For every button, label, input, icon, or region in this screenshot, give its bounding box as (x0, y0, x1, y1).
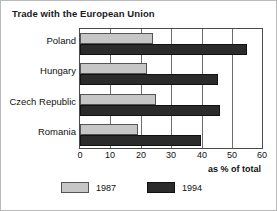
y-axis-labels: Poland Hungary Czech Republic Romania (1, 28, 76, 149)
bar-romania-1994 (80, 135, 201, 146)
x-tick-30: 30 (166, 150, 176, 160)
x-axis-ticks: 0 10 20 30 40 50 60 (79, 150, 263, 164)
x-tick-20: 20 (136, 150, 146, 160)
bar-poland-1994 (80, 44, 247, 55)
chart-title: Trade with the European Union (12, 8, 155, 19)
bar-romania-1987 (80, 124, 138, 135)
bar-group-hungary (80, 59, 262, 89)
bar-group-romania (80, 120, 262, 150)
x-tick-50: 50 (227, 150, 237, 160)
bar-poland-1987 (80, 33, 153, 44)
bar-czech-republic-1987 (80, 94, 156, 105)
legend-label-1994: 1994 (182, 183, 202, 193)
chart-figure: Trade with the European Union Poland Hun… (0, 0, 277, 211)
x-tick-10: 10 (105, 150, 115, 160)
bar-group-poland (80, 29, 262, 59)
x-tick-40: 40 (197, 150, 207, 160)
category-label-czech-republic: Czech Republic (2, 96, 76, 107)
legend-item-1994: 1994 (147, 182, 202, 193)
x-tick-0: 0 (77, 150, 82, 160)
category-label-hungary: Hungary (2, 65, 76, 76)
legend-label-1987: 1987 (96, 183, 116, 193)
bar-group-czech-republic (80, 90, 262, 120)
x-axis-label: as % of total (208, 164, 261, 174)
bar-hungary-1987 (80, 63, 147, 74)
plot-area (79, 28, 263, 149)
legend-swatch-1987-icon (61, 182, 89, 193)
legend-item-1987: 1987 (61, 182, 116, 193)
category-label-romania: Romania (2, 126, 76, 137)
bar-czech-republic-1994 (80, 105, 220, 116)
bar-hungary-1994 (80, 74, 218, 85)
legend-swatch-1994-icon (147, 182, 175, 193)
category-label-poland: Poland (2, 35, 76, 46)
chart-legend: 1987 1994 (61, 182, 231, 200)
x-tick-60: 60 (257, 150, 267, 160)
